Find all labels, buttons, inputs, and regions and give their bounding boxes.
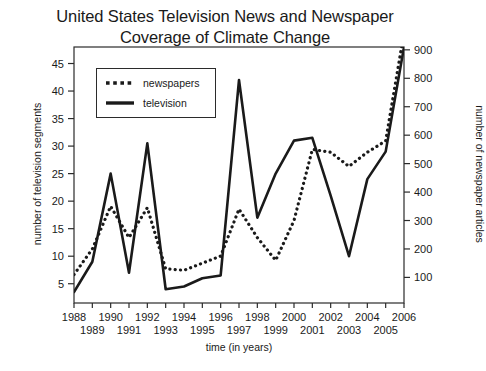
x-tick-label: 1989 [80,324,104,336]
x-tick-label: 2003 [337,324,361,336]
x-tick-label: 2001 [300,324,324,336]
legend-swatch-solid [105,97,135,109]
x-tick-label: 1991 [117,324,141,336]
y-axis-label-right: number of newspaper articles [474,74,486,274]
y-tick-label-left: 30 [32,140,64,152]
x-tick-label: 1999 [263,324,287,336]
y-tick-label-left: 35 [32,113,64,125]
x-tick-label: 1995 [190,324,214,336]
y-tick-label-right: 800 [414,72,448,84]
y-tick-label-left: 20 [32,195,64,207]
chart-title-line-1: United States Television News and Newspa… [30,6,420,27]
y-tick-label-left: 10 [32,250,64,262]
y-tick-label-right: 300 [414,215,448,227]
x-tick-label: 2005 [373,324,397,336]
legend-swatch-dotted [105,77,135,89]
legend-label-newspapers: newspapers [143,77,200,89]
legend-item-television: television [105,93,187,113]
x-axis-label: time (in years) [74,341,404,353]
y-tick-label-right: 400 [414,186,448,198]
x-tick-label: 1990 [98,311,122,323]
x-tick-label: 1997 [227,324,251,336]
y-tick-label-right: 900 [414,44,448,56]
x-tick-label: 2004 [355,311,379,323]
x-tick-label: 1998 [245,311,269,323]
x-tick-label: 1994 [172,311,196,323]
legend-item-newspapers: newspapers [105,73,200,93]
y-tick-label-right: 600 [414,129,448,141]
x-tick-label: 1996 [208,311,232,323]
chart-legend: newspapers television [96,68,216,118]
chart-title: United States Television News and Newspa… [30,6,420,48]
x-tick-label: 1988 [62,311,86,323]
y-tick-label-right: 100 [414,271,448,283]
x-tick-label: 2000 [282,311,306,323]
x-tick-label: 1992 [135,311,159,323]
y-tick-label-right: 700 [414,101,448,113]
y-tick-label-right: 500 [414,158,448,170]
y-tick-label-left: 25 [32,168,64,180]
y-tick-label-right: 200 [414,243,448,255]
y-tick-label-left: 40 [32,85,64,97]
x-tick-label: 2002 [318,311,342,323]
x-tick-label: 2006 [392,311,416,323]
x-tick-label: 1993 [153,324,177,336]
y-tick-label-left: 15 [32,223,64,235]
y-tick-label-left: 45 [32,58,64,70]
legend-label-television: television [143,97,187,109]
y-tick-label-left: 5 [32,278,64,290]
chart-title-line-2: Coverage of Climate Change [30,27,420,48]
